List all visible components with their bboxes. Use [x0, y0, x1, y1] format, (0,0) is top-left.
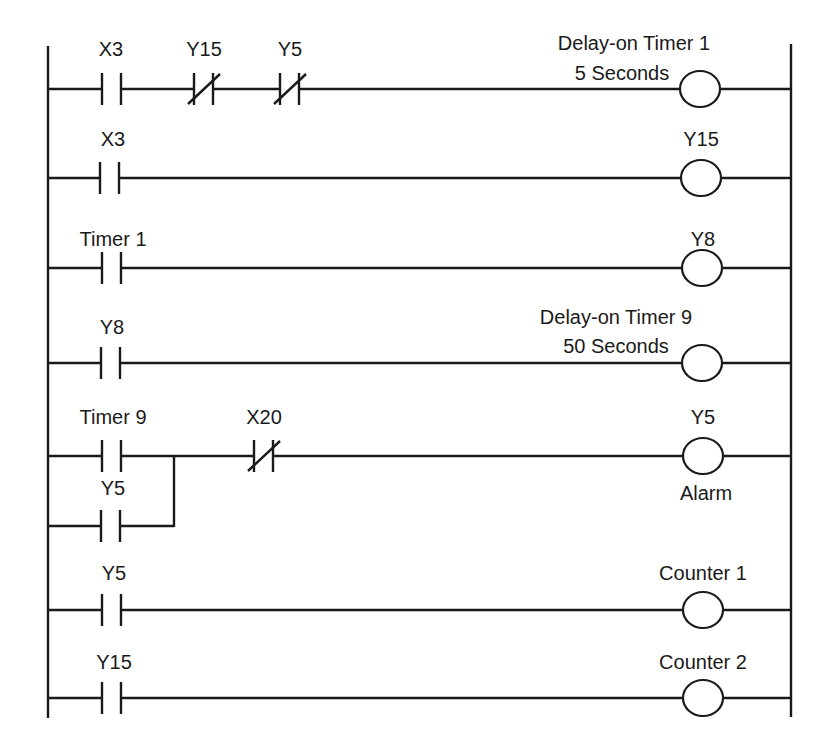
coil-label: Counter 1	[659, 562, 747, 584]
coil-label: Delay-on Timer 9	[540, 306, 692, 328]
contact-no-icon	[101, 510, 120, 542]
coil-icon	[682, 345, 722, 381]
coil-icon	[683, 680, 723, 716]
parallel-branch	[48, 456, 174, 542]
rung-5: Timer 9 X20 Y5 Y5 Alarm	[48, 406, 791, 542]
contact-label: X3	[101, 128, 125, 150]
coil-sublabel: Alarm	[680, 482, 732, 504]
coil-icon	[680, 71, 720, 107]
coil-sublabel: 50 Seconds	[563, 335, 669, 357]
coil-label: Delay-on Timer 1	[558, 32, 710, 54]
contact-label: Timer 1	[79, 228, 146, 250]
rung-4: Y8 Delay-on Timer 9 50 Seconds	[48, 306, 791, 381]
contact-label: X20	[246, 406, 282, 428]
contact-label: Y5	[102, 562, 126, 584]
coil-icon	[683, 438, 723, 474]
contact-label: Y8	[100, 316, 124, 338]
rung-2: X3 Y15	[48, 128, 791, 196]
coil-label: Counter 2	[659, 651, 747, 673]
contact-no-icon	[100, 162, 119, 194]
contact-label: Y5	[278, 38, 302, 60]
contact-label: Y15	[186, 38, 222, 60]
contact-label: X3	[99, 38, 123, 60]
coil-sublabel: 5 Seconds	[575, 62, 670, 84]
coil-icon	[681, 160, 721, 196]
coil-icon	[683, 592, 723, 628]
coil-label: Y5	[691, 406, 715, 428]
contact-no-icon	[102, 682, 121, 714]
contact-no-icon	[101, 347, 120, 379]
contact-no-icon	[102, 252, 121, 284]
contact-label: Y5	[101, 477, 125, 499]
rung-7: Y15 Counter 2	[48, 651, 791, 716]
coil-label: Y8	[691, 228, 715, 250]
contact-label: Y15	[96, 651, 132, 673]
contact-label: Timer 9	[79, 406, 146, 428]
contact-no-icon	[102, 440, 121, 472]
contact-no-icon	[102, 594, 121, 626]
rung-6: Y5 Counter 1	[48, 562, 791, 628]
coil-label: Y15	[683, 128, 719, 150]
coil-icon	[682, 250, 722, 286]
contact-no-icon	[102, 73, 121, 105]
rung-1: X3 Y15 Y5 Delay-on Timer 1 5 Seconds	[48, 32, 791, 107]
rung-3: Timer 1 Y8	[48, 228, 791, 286]
ladder-diagram: X3 Y15 Y5 Delay-on Timer 1 5 Seconds X3 …	[0, 0, 833, 753]
